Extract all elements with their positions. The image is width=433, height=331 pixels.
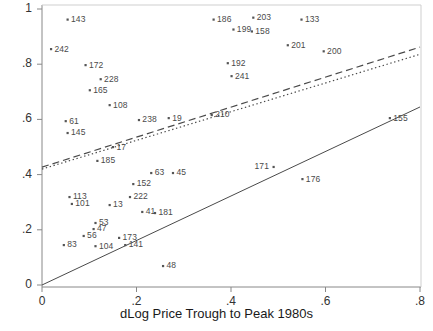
data-point-marker xyxy=(65,120,67,122)
data-point-marker xyxy=(68,196,70,198)
data-point-marker xyxy=(389,117,391,119)
data-point-label: 200 xyxy=(327,46,341,56)
data-point-label: 158 xyxy=(255,26,269,36)
data-point-label: 228 xyxy=(104,74,118,84)
data-point-marker xyxy=(227,62,229,64)
x-axis-title: dLog Price Trough to Peak 1980s xyxy=(0,306,433,321)
data-point-label: 143 xyxy=(71,14,85,24)
data-point-label: 181 xyxy=(158,207,172,217)
data-point-label: 203 xyxy=(257,12,271,22)
y-tick-marks xyxy=(37,9,42,285)
data-point-marker xyxy=(94,245,96,247)
data-point-marker xyxy=(124,244,126,246)
data-point-marker xyxy=(172,172,174,174)
data-point-marker xyxy=(323,50,325,52)
data-point-marker xyxy=(109,104,111,106)
data-point-marker xyxy=(132,183,134,185)
data-point-marker xyxy=(252,17,254,19)
data-point-label: 47 xyxy=(97,223,107,233)
data-point-marker xyxy=(50,48,52,50)
dotted-fit-line xyxy=(42,54,420,169)
data-point-label: 199 xyxy=(237,24,251,34)
data-point-marker xyxy=(112,146,114,148)
data-point-label: 13 xyxy=(113,199,123,209)
data-point-marker xyxy=(232,28,234,30)
data-point-label: 171 xyxy=(255,161,269,171)
data-point-marker xyxy=(273,166,275,168)
data-point-label: 155 xyxy=(393,113,407,123)
data-point-label: 238 xyxy=(142,114,156,124)
data-point-marker xyxy=(141,211,143,213)
data-point-marker xyxy=(63,244,65,246)
data-point-marker xyxy=(168,117,170,119)
solid-fit-line xyxy=(42,107,420,285)
x-tick-marks xyxy=(42,287,420,292)
data-point-marker xyxy=(100,78,102,80)
data-point-label: 61 xyxy=(69,116,79,126)
data-point-marker xyxy=(83,235,85,237)
data-point-label: 56 xyxy=(87,230,97,240)
scatter-plot: 0.2.4.6.81 0.2.4.6.8 1431862031332421991… xyxy=(0,0,433,331)
y-tick-label: .4 xyxy=(0,167,32,181)
data-point-marker xyxy=(213,18,215,20)
data-point-label: 17 xyxy=(116,142,126,152)
data-point-marker xyxy=(84,64,86,66)
data-point-label: 192 xyxy=(231,58,245,68)
data-point-label: 101 xyxy=(75,198,89,208)
data-point-label: 19 xyxy=(172,113,182,123)
data-point-marker xyxy=(230,75,232,77)
data-point-marker xyxy=(138,119,140,121)
y-tick-label: 0 xyxy=(0,277,32,291)
data-point-marker xyxy=(162,265,164,267)
data-point-marker xyxy=(287,44,289,46)
data-point-marker xyxy=(301,178,303,180)
data-point-label: 186 xyxy=(217,14,231,24)
data-point-marker xyxy=(150,172,152,174)
data-point-marker xyxy=(89,89,91,91)
data-point-marker xyxy=(211,114,213,116)
data-point-label: 172 xyxy=(89,60,103,70)
data-point-label: 222 xyxy=(133,191,147,201)
data-point-label: 165 xyxy=(93,85,107,95)
data-point-label: 108 xyxy=(113,100,127,110)
data-point-label: 133 xyxy=(305,14,319,24)
data-point-label: 83 xyxy=(67,239,77,249)
data-point-marker xyxy=(109,204,111,206)
data-point-label: 152 xyxy=(137,178,151,188)
data-point-marker xyxy=(129,196,131,198)
data-point-label: 201 xyxy=(291,40,305,50)
data-point-label: 176 xyxy=(306,174,320,184)
data-point-label: 141 xyxy=(129,239,143,249)
y-tick-label: .8 xyxy=(0,56,32,70)
data-point-marker xyxy=(67,18,69,20)
y-tick-label: .2 xyxy=(0,222,32,236)
data-point-label: 145 xyxy=(71,127,85,137)
data-point-marker xyxy=(118,237,120,239)
y-tick-label: .6 xyxy=(0,111,32,125)
data-point-label: 242 xyxy=(54,44,68,54)
y-tick-label: 1 xyxy=(0,1,32,15)
data-point-label: 48 xyxy=(166,260,176,270)
data-point-label: 45 xyxy=(176,167,186,177)
data-point-label: 63 xyxy=(155,167,165,177)
data-point-label: 185 xyxy=(101,155,115,165)
data-point-label: 241 xyxy=(235,71,249,81)
data-point-marker xyxy=(300,18,302,20)
data-point-label: 210 xyxy=(215,109,229,119)
data-point-marker xyxy=(71,203,73,205)
data-point-label: 104 xyxy=(99,241,113,251)
data-point-marker xyxy=(67,132,69,134)
data-point-label: 41 xyxy=(146,206,156,216)
data-point-marker xyxy=(96,160,98,162)
